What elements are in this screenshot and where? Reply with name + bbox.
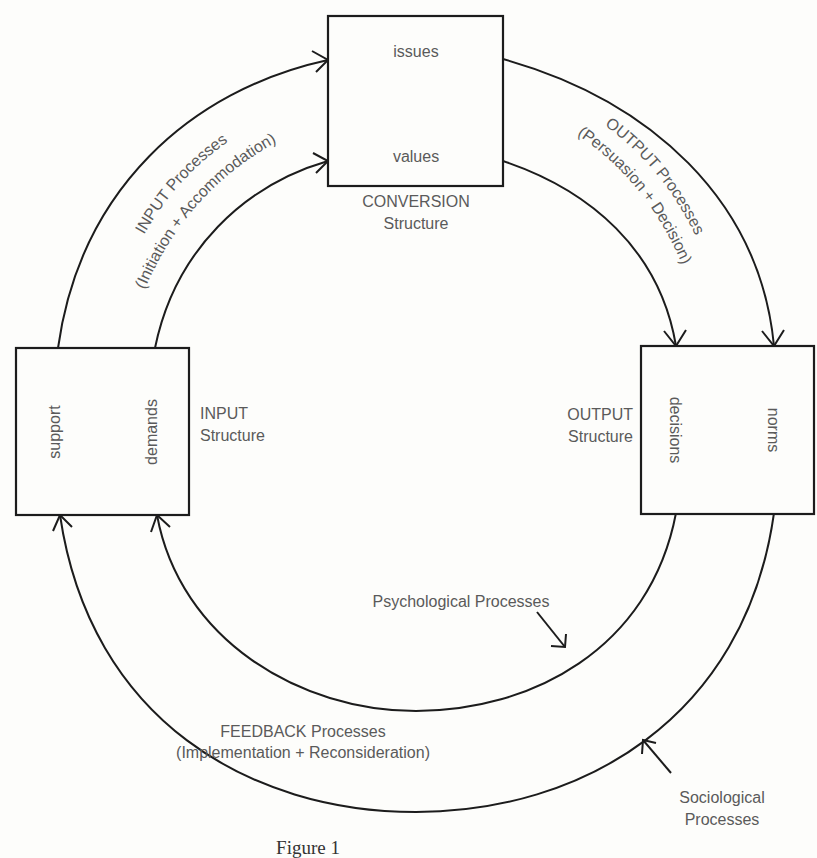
demands-label: demands [143, 399, 160, 465]
values-label: values [393, 148, 439, 165]
norms-label: norms [765, 408, 782, 452]
conversion-structure-label: Structure [384, 215, 449, 232]
sociological-processes-label: Sociological [679, 789, 764, 806]
political-system-diagram: issues values CONVERSION Structure suppo… [0, 0, 817, 858]
psychological-processes-label: Psychological Processes [373, 593, 550, 610]
figure-caption: Figure 1 [276, 837, 340, 858]
output-label: OUTPUT [567, 406, 633, 423]
psychological-feedback-arc [157, 513, 676, 711]
output-structure-box [641, 346, 814, 514]
issues-label: issues [393, 43, 438, 60]
output-structure-label: Structure [568, 428, 633, 445]
psychological-pointer-arrow [537, 612, 565, 647]
support-label: support [46, 405, 63, 459]
feedback-processes-label: FEEDBACK Processes [220, 723, 385, 740]
output-outer-arc [503, 59, 774, 346]
conversion-label: CONVERSION [362, 193, 470, 210]
input-inner-arc [155, 161, 328, 348]
input-structure-label: Structure [200, 427, 265, 444]
feedback-processes-sublabel: (Implementation + Reconsideration) [176, 744, 430, 761]
sociological-pointer-arrow [643, 740, 671, 773]
decisions-label: decisions [667, 397, 684, 464]
input-structure-box [16, 348, 189, 515]
sociological-processes-sublabel: Processes [685, 811, 760, 828]
input-label: INPUT [200, 405, 248, 422]
